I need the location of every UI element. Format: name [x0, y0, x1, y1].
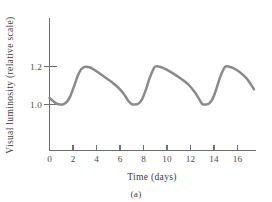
- x-tick-label-4: 4: [94, 154, 99, 164]
- x-tick-label-6: 6: [118, 154, 123, 164]
- y-tick-labels: 1.2 1.0: [30, 62, 42, 110]
- chart-canvas: 1.2 1.0 0 2 4 6 8 10 12 14 16: [0, 0, 272, 202]
- x-tick-label-16: 16: [233, 154, 243, 164]
- y-axis-title: Visual luminosity (relative scale): [4, 16, 16, 153]
- light-curve-figure: 1.2 1.0 0 2 4 6 8 10 12 14 16: [0, 0, 272, 202]
- luminosity-curve: [50, 66, 254, 104]
- y-tick-label-1-0: 1.0: [30, 100, 42, 110]
- x-axis-title: Time (days): [127, 171, 177, 183]
- x-tick-label-2: 2: [71, 154, 76, 164]
- x-tick-label-12: 12: [186, 154, 196, 164]
- x-tick-label-8: 8: [141, 154, 146, 164]
- x-tick-label-0: 0: [47, 154, 52, 164]
- y-tick-label-1-2: 1.2: [30, 62, 42, 72]
- axes-group: [49, 18, 256, 151]
- figure-caption: (a): [131, 189, 142, 199]
- x-tick-label-14: 14: [209, 154, 219, 164]
- x-tick-labels: 0 2 4 6 8 10 12 14 16: [47, 154, 242, 164]
- x-tick-label-10: 10: [162, 154, 172, 164]
